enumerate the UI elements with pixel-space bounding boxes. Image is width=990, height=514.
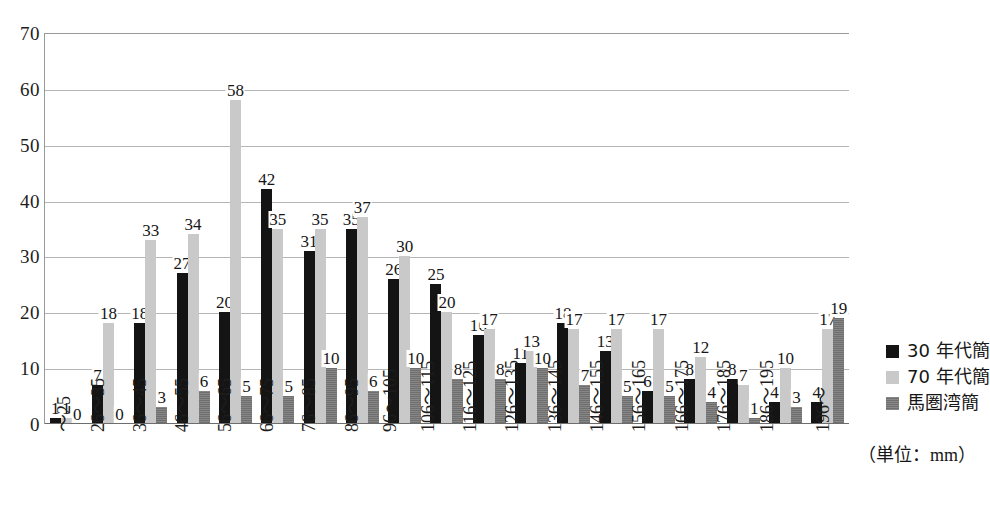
bar-slot: 31 bbox=[304, 34, 315, 424]
legend-swatch-icon bbox=[886, 371, 899, 384]
bar-slot: 1 bbox=[50, 34, 61, 424]
x-tick-cell: 126～135 bbox=[510, 424, 552, 514]
bar-slot: 5 bbox=[283, 34, 294, 424]
bar-slot: 35 bbox=[346, 34, 357, 424]
bar-group: 35376 bbox=[341, 34, 383, 424]
bar-slot: 17 bbox=[484, 34, 495, 424]
bar-value-label: 3 bbox=[157, 389, 168, 406]
x-tick-label: 196～ bbox=[813, 387, 831, 432]
bar-slot: 35 bbox=[272, 34, 283, 424]
bar-slot: 1 bbox=[61, 34, 72, 424]
bar-slot: 20 bbox=[441, 34, 452, 424]
bar-slot: 10 bbox=[780, 34, 791, 424]
bar[interactable]: 5 bbox=[241, 396, 252, 424]
bar-group: 41719 bbox=[807, 34, 849, 424]
bar[interactable]: 58 bbox=[230, 100, 241, 424]
bar-slot: 6 bbox=[199, 34, 210, 424]
bar-value-label: 5 bbox=[283, 378, 294, 395]
bar[interactable]: 17 bbox=[653, 329, 664, 424]
bar-slot: 17 bbox=[653, 34, 664, 424]
x-tick-cell: 176～185 bbox=[722, 424, 764, 514]
x-tick-label: 26～35 bbox=[89, 378, 107, 432]
bar[interactable]: 10 bbox=[780, 368, 791, 424]
bar[interactable]: 7 bbox=[738, 385, 749, 424]
bar[interactable]: 12 bbox=[695, 357, 706, 424]
bar-group: 42355 bbox=[257, 34, 299, 424]
bar-slot: 18 bbox=[103, 34, 114, 424]
x-tick-cell: 136～145 bbox=[553, 424, 595, 514]
bar[interactable]: 6 bbox=[368, 391, 379, 425]
bar-group: 313510 bbox=[299, 34, 341, 424]
x-tick-cell: 46～55 bbox=[171, 424, 213, 514]
bar[interactable]: 10 bbox=[326, 368, 337, 424]
bar-value-label: 6 bbox=[199, 373, 210, 390]
bar-value-label: 5 bbox=[241, 378, 252, 395]
bar-value-label: 3 bbox=[791, 389, 802, 406]
bar-slot: 17 bbox=[822, 34, 833, 424]
legend-item[interactable]: 30 年代簡 bbox=[886, 342, 990, 360]
bar-slot: 3 bbox=[791, 34, 802, 424]
bar[interactable]: 30 bbox=[399, 256, 410, 424]
x-tick-label: 46～55 bbox=[173, 378, 191, 432]
x-tick-label: 126～135 bbox=[503, 360, 521, 432]
x-tick-label: 156～165 bbox=[630, 360, 648, 432]
bar-slot: 58 bbox=[230, 34, 241, 424]
x-tick-label: ～25 bbox=[55, 396, 73, 432]
x-tick-label: 86～95 bbox=[343, 378, 361, 432]
bar[interactable]: 19 bbox=[833, 318, 844, 424]
bar[interactable]: 6 bbox=[199, 391, 210, 425]
bar[interactable]: 3 bbox=[791, 407, 802, 424]
bar-slot: 34 bbox=[188, 34, 199, 424]
legend-label: 70 年代簡 bbox=[907, 368, 990, 386]
y-tick-label: 60 bbox=[20, 79, 40, 98]
bar[interactable]: 17 bbox=[611, 329, 622, 424]
bar-value-label: 19 bbox=[829, 300, 848, 317]
x-tick-cell: 146～155 bbox=[595, 424, 637, 514]
bar-value-label: 6 bbox=[368, 373, 379, 390]
bar-slot: 33 bbox=[145, 34, 156, 424]
bar-slot: 5 bbox=[241, 34, 252, 424]
legend-swatch-icon bbox=[886, 345, 899, 358]
y-tick-label: 0 bbox=[30, 415, 40, 434]
bar[interactable]: 5 bbox=[283, 396, 294, 424]
bar-group: 27346 bbox=[172, 34, 214, 424]
bar-slot: 19 bbox=[833, 34, 844, 424]
x-tick-cell: 116～125 bbox=[468, 424, 510, 514]
y-tick-label: 40 bbox=[20, 191, 40, 210]
bar-slot: 37 bbox=[357, 34, 368, 424]
x-tick-label: 116～125 bbox=[461, 361, 479, 432]
bar-slot: 10 bbox=[326, 34, 337, 424]
x-tick-label: 36～45 bbox=[131, 378, 149, 432]
y-axis: 010203040506070 bbox=[0, 0, 40, 514]
bar-slot: 42 bbox=[261, 34, 272, 424]
x-tick-label: 106～115 bbox=[419, 361, 437, 432]
x-tick-cell: 156～165 bbox=[637, 424, 679, 514]
x-tick-cell: 186～195 bbox=[764, 424, 806, 514]
legend-item[interactable]: 馬圏湾簡 bbox=[886, 394, 990, 412]
bar-slot: 7 bbox=[738, 34, 749, 424]
legend-item[interactable]: 70 年代簡 bbox=[886, 368, 990, 386]
bar[interactable]: 17 bbox=[568, 329, 579, 424]
bar-slot: 17 bbox=[611, 34, 622, 424]
legend-swatch-icon bbox=[886, 397, 899, 410]
x-tick-label: 56～65 bbox=[216, 378, 234, 432]
bar-slot: 4 bbox=[811, 34, 822, 424]
x-tick-label: 96～105 bbox=[381, 369, 399, 432]
x-tick-cell: 196～ bbox=[807, 424, 849, 514]
y-tick-label: 10 bbox=[20, 359, 40, 378]
bar-group: 18333 bbox=[130, 34, 172, 424]
bar-value-label: 0 bbox=[114, 406, 125, 423]
bar[interactable]: 17 bbox=[484, 329, 495, 424]
x-tick-cell: 56～65 bbox=[214, 424, 256, 514]
y-tick-label: 50 bbox=[20, 135, 40, 154]
bar[interactable]: 20 bbox=[441, 312, 452, 424]
bar[interactable]: 3 bbox=[156, 407, 167, 424]
x-tick-label: 176～185 bbox=[715, 360, 733, 432]
legend-label: 馬圏湾簡 bbox=[907, 394, 979, 412]
bar-slot: 6 bbox=[368, 34, 379, 424]
unit-note: （単位：mm） bbox=[858, 446, 976, 464]
y-tick-label: 70 bbox=[20, 24, 40, 43]
x-tick-label: 136～145 bbox=[546, 360, 564, 432]
x-tick-label: 66～75 bbox=[258, 378, 276, 432]
